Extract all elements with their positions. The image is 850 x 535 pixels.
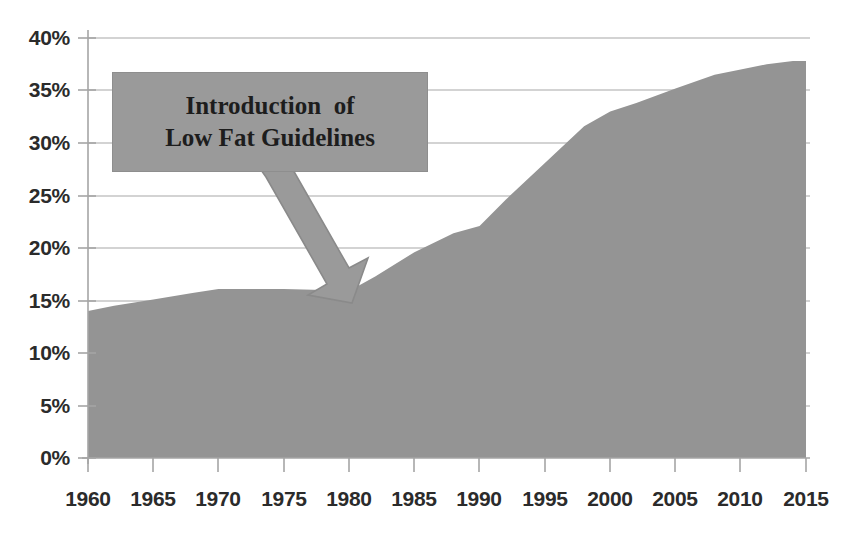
y-tick-label: 30% xyxy=(8,131,70,155)
callout-arrow-icon xyxy=(261,161,368,303)
y-tick-label: 10% xyxy=(8,341,70,365)
annotation-line-1: Introduction of xyxy=(185,90,354,122)
y-tick-label: 25% xyxy=(8,184,70,208)
annotation-line-2: Low Fat Guidelines xyxy=(165,122,375,154)
y-tick-label: 20% xyxy=(8,236,70,260)
x-tick-label: 2015 xyxy=(761,487,850,511)
y-tick-label: 40% xyxy=(8,26,70,50)
annotation-callout-box: Introduction of Low Fat Guidelines xyxy=(112,72,428,172)
x-axis-ticks xyxy=(88,458,806,472)
y-tick-label: 35% xyxy=(8,78,70,102)
y-tick-label: 15% xyxy=(8,289,70,313)
chart-figure: 40% 35% 30% 25% 20% 15% 10% 5% 0% 1960 1… xyxy=(0,0,850,535)
y-tick-label: 5% xyxy=(8,394,70,418)
y-tick-label: 0% xyxy=(8,446,70,470)
